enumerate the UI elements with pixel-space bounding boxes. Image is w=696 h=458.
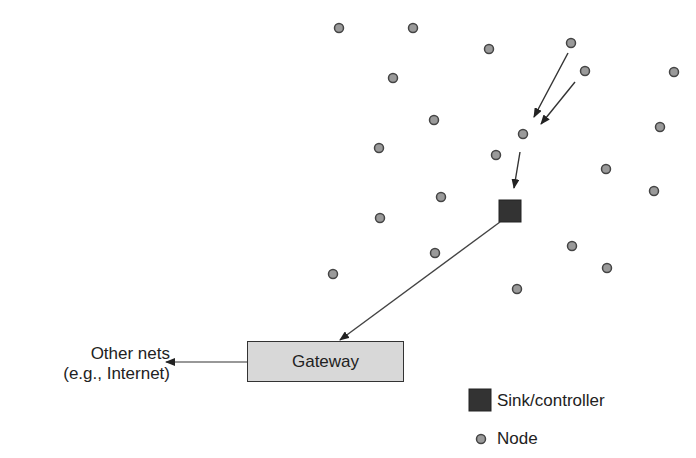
other-nets-line2: (e.g., Internet): [63, 364, 170, 384]
node-icon: [670, 68, 679, 77]
legend-sink-icon: [469, 389, 491, 411]
sink-to-gateway-arrow: [340, 222, 500, 340]
legend-sink-label: Sink/controller: [497, 391, 605, 411]
sink-controller: [499, 200, 521, 222]
node-icon: [375, 144, 384, 153]
node-icon: [376, 214, 385, 223]
node-icon: [513, 285, 522, 294]
node-icon: [389, 74, 398, 83]
node-icon: [519, 130, 528, 139]
flow-arrow-1: [534, 53, 568, 117]
node-icon: [485, 45, 494, 54]
node-icon: [602, 165, 611, 174]
node-icon: [656, 123, 665, 132]
node-icon: [437, 193, 446, 202]
other-nets-label: Other nets (e.g., Internet): [63, 344, 170, 384]
node-icon: [329, 270, 338, 279]
gateway-box: Gateway: [247, 341, 404, 382]
node-icon: [568, 242, 577, 251]
other-nets-line1: Other nets: [63, 344, 170, 364]
node-icon: [430, 116, 439, 125]
network-diagram: [0, 0, 696, 458]
flow-arrow-2: [541, 82, 575, 124]
node-icon: [335, 24, 344, 33]
node-icon: [603, 264, 612, 273]
sensor-nodes: [329, 24, 679, 294]
flow-arrow-3: [514, 152, 520, 188]
node-icon: [567, 39, 576, 48]
node-icon: [492, 151, 501, 160]
legend-node-icon: [477, 435, 486, 444]
legend-node-label: Node: [497, 429, 538, 449]
node-icon: [581, 67, 590, 76]
node-icon: [431, 249, 440, 258]
node-icon: [409, 24, 418, 33]
node-icon: [650, 187, 659, 196]
